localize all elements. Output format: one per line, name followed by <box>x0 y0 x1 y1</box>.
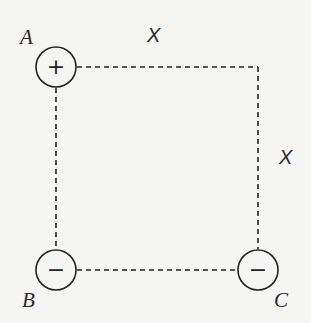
diagram-canvas: + − − A B C X X <box>0 0 311 323</box>
label-c: C <box>274 290 288 311</box>
side-length-right: X <box>279 147 292 167</box>
charge-c-sign: − <box>238 250 278 290</box>
charge-b-sign: − <box>36 250 76 290</box>
label-b: B <box>22 290 35 311</box>
label-a: A <box>20 27 33 48</box>
charge-a-sign: + <box>36 47 76 87</box>
side-length-top: X <box>147 25 160 45</box>
